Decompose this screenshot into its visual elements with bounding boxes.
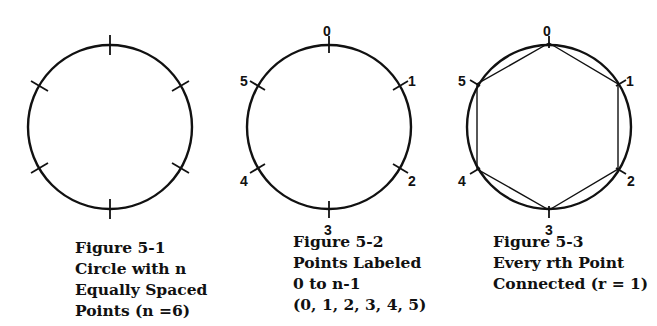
- hexagon-connections: [477, 43, 618, 210]
- point-label-4: 4: [458, 173, 466, 189]
- caption-line: 0 to n-1: [293, 273, 426, 294]
- caption-line: Points Labeled: [293, 252, 426, 273]
- caption-line: Equally Spaced: [75, 279, 207, 300]
- point-label-5: 5: [458, 73, 466, 89]
- caption-title: Figure 5-1: [75, 237, 207, 258]
- caption-line: Circle with n: [75, 258, 207, 279]
- figure-5-3-caption: Figure 5-3 Every rth Point Connected (r …: [493, 231, 648, 294]
- figure-5-1-caption: Figure 5-1 Circle with n Equally Spaced …: [75, 237, 207, 321]
- point-label-4: 4: [240, 173, 248, 189]
- point-label-2: 2: [627, 173, 635, 189]
- point-label-5: 5: [240, 73, 248, 89]
- figure-5-1-diagram: [28, 35, 192, 219]
- figure-5-2-diagram: 0 1 2 3 4 5: [240, 23, 416, 238]
- caption-title: Figure 5-3: [493, 231, 648, 252]
- point-label-0: 0: [543, 23, 551, 39]
- point-label-0: 0: [323, 23, 331, 39]
- caption-title: Figure 5-2: [293, 231, 426, 252]
- caption-line: Points (n =6): [75, 300, 207, 321]
- caption-line: Every rth Point: [493, 252, 648, 273]
- figure-5-3-diagram: 0 1 2 3 4 5: [458, 23, 635, 238]
- figure-5-2-caption: Figure 5-2 Points Labeled 0 to n-1 (0, 1…: [293, 231, 426, 315]
- point-label-1: 1: [408, 73, 416, 89]
- point-label-2: 2: [408, 173, 416, 189]
- caption-line: Connected (r = 1): [493, 273, 648, 294]
- caption-line: (0, 1, 2, 3, 4, 5): [293, 294, 426, 315]
- point-label-1: 1: [626, 73, 634, 89]
